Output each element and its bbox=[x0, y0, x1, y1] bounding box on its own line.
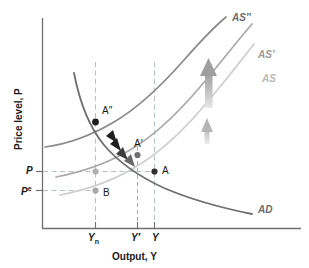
point-label-a-prime: A′ bbox=[134, 139, 143, 149]
point-label-b: B bbox=[103, 188, 110, 198]
curve-label-ad: AD bbox=[258, 205, 272, 215]
point-A bbox=[151, 168, 157, 174]
x-axis-title: Output, Y bbox=[112, 252, 157, 262]
x-tick-label-y: Y bbox=[152, 233, 159, 243]
point-label-a-double-prime: A″ bbox=[102, 106, 112, 116]
curve-ad bbox=[74, 73, 252, 214]
point-B bbox=[92, 187, 98, 193]
curve-label-as-double-prime: AS″ bbox=[232, 13, 251, 23]
diagram-canvas bbox=[0, 0, 309, 268]
point-label-a: A bbox=[162, 166, 169, 176]
point-A-double-prime bbox=[92, 119, 99, 126]
curve-label-as-prime: AS′ bbox=[258, 50, 274, 60]
shift-arrow-small bbox=[201, 118, 213, 144]
ad-as-diagram: Price level, P Output, Y Yn Y′ Y P Pe A … bbox=[0, 0, 309, 268]
y-tick-label-pe: Pe bbox=[21, 185, 32, 197]
x-axis-ticks bbox=[96, 222, 155, 229]
point-as-prime-at-yn bbox=[92, 168, 98, 174]
x-tick-label-y-prime: Y′ bbox=[131, 233, 140, 243]
curve-as-double-prime bbox=[45, 17, 226, 147]
y-tick-label-p: P bbox=[26, 166, 33, 176]
curve-label-as: AS bbox=[262, 74, 276, 84]
point-A-prime bbox=[134, 152, 140, 158]
y-axis-ticks bbox=[36, 172, 43, 191]
x-tick-label-yn: Yn bbox=[88, 233, 99, 245]
y-axis-title: Price level, P bbox=[14, 88, 24, 150]
